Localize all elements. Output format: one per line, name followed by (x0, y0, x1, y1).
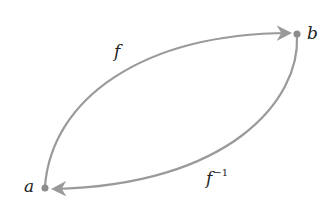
edge-f-label: f (114, 43, 120, 60)
node-b-label: b (307, 25, 318, 42)
edge-f-inverse-superscript: −1 (213, 167, 228, 178)
edge-f-inverse-base: f (206, 168, 212, 188)
edge-f-a-to-b (45, 33, 289, 186)
mapping-diagram (0, 0, 327, 207)
edge-f-inverse-label: f−1 (206, 170, 228, 187)
node-a-dot (42, 185, 49, 192)
node-a-label: a (24, 178, 34, 195)
edge-f-inverse-b-to-a (54, 36, 297, 189)
node-b-dot (294, 31, 301, 38)
